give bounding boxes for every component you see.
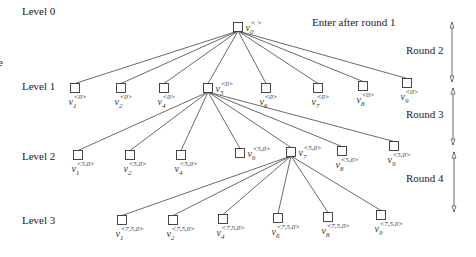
tree-node[interactable] [169,216,178,225]
tree-edge [208,92,240,149]
tree-edge [238,31,363,82]
tree-node[interactable] [160,84,169,93]
tree-edge [164,31,238,84]
tree-edge [291,156,328,213]
round-label: Round 3 [406,108,444,120]
tree-edge [238,31,407,79]
node-label: v8<0> [357,91,375,108]
node-label: v2<0> [115,93,133,110]
tree-node[interactable] [377,211,386,220]
enter-after-round-annotation: Enter after round 1 [312,16,395,28]
level-label: Level 1 [22,80,55,92]
tree-edge [208,92,291,148]
node-label: v9<5,0> [388,151,411,168]
tree-node[interactable] [177,151,186,160]
tree-node[interactable] [403,79,412,88]
node-label: v1<5,0> [72,160,95,177]
tree-edge [121,31,238,84]
tree-node[interactable] [219,215,228,224]
round-label: Round 2 [406,44,444,56]
nodes [71,23,412,225]
node-label: v8<5,0> [336,156,359,173]
tree-edge [238,31,266,84]
tree-edge [75,31,238,84]
arrow-down-icon [451,139,455,145]
node-label: v6<7,5,0> [272,223,301,240]
tree-node[interactable] [287,148,296,157]
arrow-up-icon [451,88,455,94]
node-labels: v0< >v1<0>v2<0>v4<0>v5<0>v6<0>v7<0>v8<0>… [69,19,419,242]
arrow-down-icon [450,76,454,82]
tree-node[interactable] [118,216,127,225]
node-label: v7<5,0> [299,144,322,161]
node-label: v2<7,5,0> [167,225,196,242]
round-arrows: Round 2Round 3Round 4 [406,22,456,212]
node-label: v8<7,5,0> [322,222,351,239]
node-label: v1<7,5,0> [116,225,145,242]
node-label: v1<0> [69,93,87,110]
node-label: v9<7,5,0> [375,220,404,237]
node-label: v6<0> [260,93,278,110]
node-label: v4<5,0> [175,160,198,177]
node-label: v6<5,0> [248,145,271,162]
tree-diagram: v0< >v1<0>v2<0>v4<0>v5<0>v6<0>v7<0>v8<0>… [0,0,476,257]
tree-edge [130,92,208,151]
tree-canvas: v0< >v1<0>v2<0>v4<0>v5<0>v6<0>v7<0>v8<0>… [0,0,476,257]
node-label: v4<0> [158,93,176,110]
tree-node[interactable] [236,149,245,158]
tree-edge [122,156,291,216]
tree-node[interactable] [117,84,126,93]
arrow-down-icon [452,206,456,212]
tree-edge [181,92,208,151]
edges [75,31,407,216]
level-label: Level 2 [22,150,55,162]
arrow-up-icon [450,22,454,28]
node-label: v9<0> [401,88,419,105]
tree-node[interactable] [359,82,368,91]
arrow-up-icon [452,152,456,158]
root-node[interactable] [234,23,243,32]
node-label: v2<5,0> [124,160,147,177]
clipped-text-fragment: e [0,56,3,68]
tree-node[interactable] [262,84,271,93]
tree-node[interactable] [314,84,323,93]
tree-node[interactable] [390,142,399,151]
level-label: Level 3 [22,214,56,226]
tree-node[interactable] [324,213,333,222]
node-label: v7<0> [312,93,330,110]
tree-node[interactable] [274,214,283,223]
tree-edge [78,92,208,151]
tree-edge [238,31,318,84]
tree-edge [278,156,291,214]
tree-node[interactable] [126,151,135,160]
tree-node[interactable] [74,151,83,160]
tree-node[interactable] [204,84,213,93]
node-label: v4<7,5,0> [217,224,246,241]
level-labels: Level 0Level 1Level 2Level 3e [0,5,56,226]
round-label: Round 4 [406,172,444,184]
tree-node[interactable] [71,84,80,93]
tree-edge [208,92,394,142]
level-label: Level 0 [22,5,56,17]
tree-node[interactable] [338,147,347,156]
